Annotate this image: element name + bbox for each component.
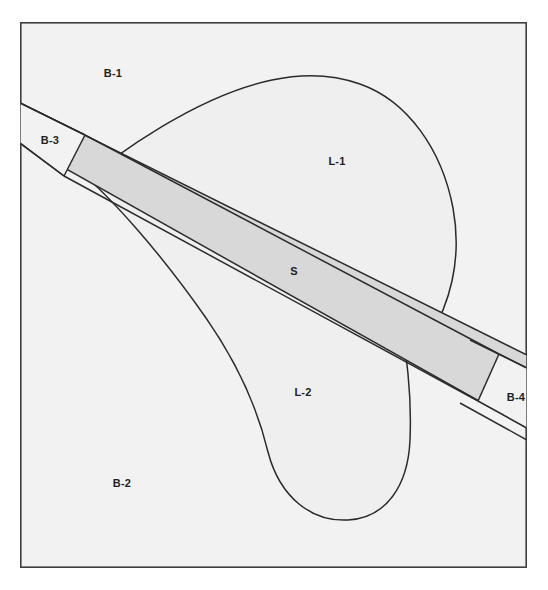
label-b-1: B-1 xyxy=(104,67,122,79)
label-l-1: L-1 xyxy=(328,155,345,167)
label-b-2: B-2 xyxy=(113,477,131,489)
label-b-4: B-4 xyxy=(507,391,526,403)
figure-root: B-1 B-2 B-3 B-4 L-1 L-2 S xyxy=(0,0,548,590)
label-s: S xyxy=(290,265,298,277)
label-l-2: L-2 xyxy=(294,386,311,398)
label-b-3: B-3 xyxy=(41,134,59,146)
diagram-canvas: B-1 B-2 B-3 B-4 L-1 L-2 S xyxy=(0,0,548,590)
